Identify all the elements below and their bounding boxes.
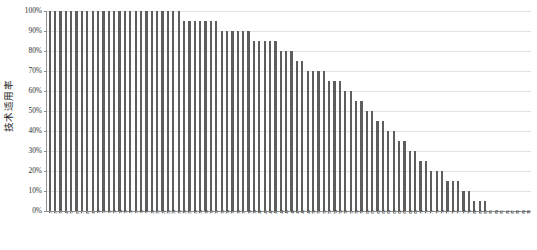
bar — [296, 61, 298, 211]
bar — [350, 91, 352, 211]
bar — [430, 171, 432, 211]
plot-area — [46, 11, 531, 212]
bar-slot — [525, 11, 530, 211]
bar — [269, 41, 271, 211]
bar — [70, 11, 72, 211]
bar — [86, 11, 88, 211]
bar — [360, 101, 362, 211]
y-axis-tick-label: 60% — [28, 87, 42, 94]
y-axis-tick-label: 70% — [28, 67, 42, 74]
x-axis-tick-labels: 1234567891011121314151617181920212223242… — [46, 213, 530, 247]
bar — [124, 11, 126, 211]
bar — [183, 21, 185, 211]
bar — [210, 21, 212, 211]
bar — [441, 171, 443, 211]
bar-chart-figure: 技术适用率 100%90%80%70%60%50%40%30%20%10%0% … — [0, 0, 537, 250]
y-axis-tick-label: 40% — [28, 127, 42, 134]
bar — [403, 141, 405, 211]
bar — [328, 81, 330, 211]
bar — [242, 31, 244, 211]
bar — [339, 81, 341, 211]
y-axis-tick-label: 100% — [25, 7, 42, 14]
bar — [231, 31, 233, 211]
bar — [194, 21, 196, 211]
x-axis-tick-label: 90 — [527, 210, 531, 214]
bar — [215, 21, 217, 211]
bar — [118, 11, 120, 211]
bar — [323, 71, 325, 211]
bar — [167, 11, 169, 211]
bar — [301, 61, 303, 211]
bar — [317, 71, 319, 211]
bar — [54, 11, 56, 211]
bar — [290, 51, 292, 211]
bar — [178, 11, 180, 211]
bar — [204, 21, 206, 211]
bar — [156, 11, 158, 211]
bar — [280, 51, 282, 211]
bar — [457, 181, 459, 211]
bar — [333, 81, 335, 211]
bar — [344, 91, 346, 211]
bar — [419, 161, 421, 211]
x-tick-slot: 90 — [524, 213, 529, 247]
bar — [49, 11, 51, 211]
bar — [355, 101, 357, 211]
bar — [425, 161, 427, 211]
bar — [468, 191, 470, 211]
bar — [151, 11, 153, 211]
bar — [75, 11, 77, 211]
y-axis-title-text: 技术适用率 — [1, 80, 15, 132]
bar — [446, 181, 448, 211]
bar — [135, 11, 137, 211]
bar — [382, 121, 384, 211]
bar — [452, 181, 454, 211]
bar — [393, 131, 395, 211]
bar — [366, 111, 368, 211]
y-axis-tick-labels: 100%90%80%70%60%50%40%30%20%10%0% — [14, 0, 44, 216]
bar — [81, 11, 83, 211]
bar — [102, 11, 104, 211]
bar — [307, 71, 309, 211]
y-axis-tick-label: 10% — [28, 187, 42, 194]
bar — [371, 111, 373, 211]
bar — [92, 11, 94, 211]
y-axis-tick-label: 90% — [28, 27, 42, 34]
y-axis-tick-label: 20% — [28, 167, 42, 174]
bar — [145, 11, 147, 211]
bar — [264, 41, 266, 211]
bar — [462, 191, 464, 211]
bar — [274, 41, 276, 211]
bar — [59, 11, 61, 211]
bar — [376, 121, 378, 211]
bar — [414, 151, 416, 211]
bar — [312, 71, 314, 211]
bar — [199, 21, 201, 211]
bar — [398, 141, 400, 211]
bar — [113, 11, 115, 211]
bar — [387, 131, 389, 211]
bar — [97, 11, 99, 211]
bar — [258, 41, 260, 211]
y-axis-tick-label: 30% — [28, 147, 42, 154]
bar-series — [47, 11, 531, 211]
bar — [436, 171, 438, 211]
bar — [161, 11, 163, 211]
y-axis-tick-label: 50% — [28, 107, 42, 114]
bar — [221, 31, 223, 211]
bar — [409, 151, 411, 211]
bar — [247, 31, 249, 211]
y-axis-tick-label: 80% — [28, 47, 42, 54]
bar — [108, 11, 110, 211]
bar — [129, 11, 131, 211]
bar — [65, 11, 67, 211]
bar — [253, 41, 255, 211]
bar — [285, 51, 287, 211]
bar — [226, 31, 228, 211]
bar — [237, 31, 239, 211]
y-axis-tick-label: 0% — [32, 207, 42, 214]
bar — [140, 11, 142, 211]
bar — [188, 21, 190, 211]
bar — [172, 11, 174, 211]
